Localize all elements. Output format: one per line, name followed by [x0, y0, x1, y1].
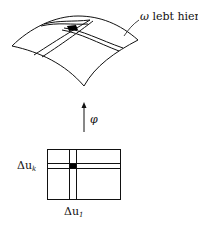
delta-uk-sub: k — [32, 165, 36, 173]
domain-patch — [70, 164, 76, 169]
delta-uk-base: Δu — [17, 159, 32, 172]
phi-symbol: φ — [90, 113, 98, 126]
parameter-domain — [48, 150, 121, 200]
surface-line-h2b — [62, 30, 119, 51]
surface-label: ω lebt hier — [140, 11, 198, 23]
omega-symbol: ω — [140, 10, 149, 23]
surface-label-text: lebt hier — [152, 10, 198, 23]
arrow-head-icon — [82, 102, 87, 108]
surface-left-edge — [12, 46, 84, 86]
map-arrow — [82, 102, 87, 132]
surface-line-h2 — [64, 28, 123, 48]
map-label: φ — [90, 114, 98, 126]
domain-rectangle — [48, 150, 121, 200]
surface-patch — [67, 25, 78, 31]
delta-uk-label: Δuk — [17, 160, 36, 175]
diagram-canvas — [0, 0, 198, 230]
delta-u1-base: Δu — [64, 205, 79, 218]
label-leader-line — [124, 20, 139, 36]
surface-right-edge — [84, 40, 138, 86]
delta-u1-label: Δu1 — [64, 206, 84, 221]
delta-u1-sub: 1 — [79, 211, 83, 219]
